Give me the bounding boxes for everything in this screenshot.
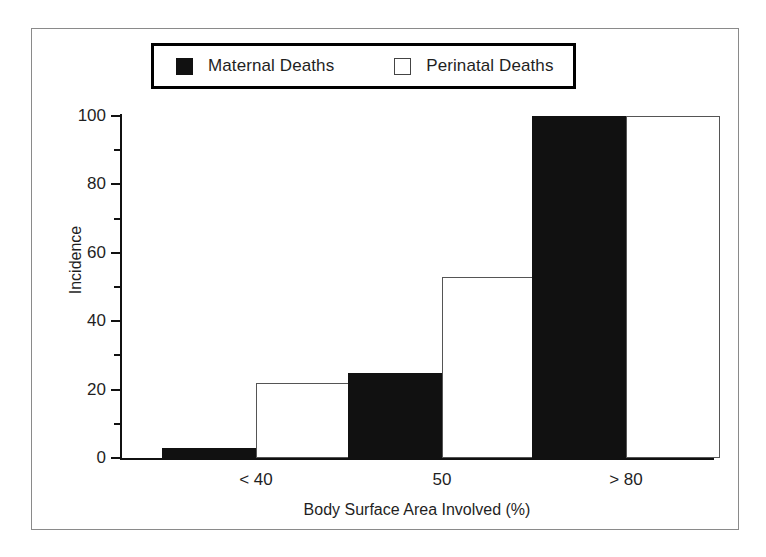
y-axis-major-tick (111, 320, 120, 322)
y-axis-tick-label: 20 (44, 380, 106, 400)
bar-maternal-deaths (532, 116, 626, 458)
y-axis-minor-tick (114, 149, 120, 151)
y-axis-title: Incidence (67, 180, 85, 340)
y-axis-tick-label: 0 (44, 448, 106, 468)
x-axis-line (120, 458, 714, 460)
y-axis-line (120, 114, 122, 460)
y-axis-major-tick (111, 115, 120, 117)
figure-frame: Maternal Deaths Perinatal Deaths 0204060… (31, 28, 739, 530)
y-axis-minor-tick (114, 218, 120, 220)
y-axis-minor-tick (114, 354, 120, 356)
x-axis-tick-label: < 40 (239, 470, 273, 490)
y-axis-major-tick (111, 183, 120, 185)
x-axis-tick-label: > 80 (609, 470, 643, 490)
bar-maternal-deaths (162, 448, 256, 458)
plot-area: 020406080100 Incidence < 4050> 80 Body S… (32, 29, 740, 531)
y-axis-major-tick (111, 457, 120, 459)
bar-perinatal-deaths (442, 277, 536, 458)
x-axis-title: Body Surface Area Involved (%) (120, 501, 714, 519)
y-axis-minor-tick (114, 286, 120, 288)
bar-perinatal-deaths (256, 383, 350, 458)
x-axis-tick-label: 50 (433, 470, 452, 490)
y-axis-tick-label: 100 (44, 106, 106, 126)
y-axis-minor-tick (114, 423, 120, 425)
bar-perinatal-deaths (626, 116, 720, 458)
y-axis-major-tick (111, 252, 120, 254)
y-axis-major-tick (111, 389, 120, 391)
bar-maternal-deaths (348, 373, 442, 459)
